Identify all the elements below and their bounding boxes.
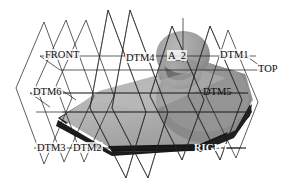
- cad-viewport[interactable]: FRONTDTM4A_2DTM1TOPDTM6DTM5DTM3DTM2RIGHT: [0, 0, 292, 186]
- datum-label-dtm1[interactable]: DTM1: [219, 49, 250, 60]
- datum-label-dtm3[interactable]: DTM3: [36, 142, 67, 153]
- datum-label-dtm2[interactable]: DTM2: [72, 142, 103, 153]
- datum-label-dtm4[interactable]: DTM4: [125, 52, 156, 63]
- datum-label-front[interactable]: FRONT: [44, 49, 80, 60]
- datum-label-dtm6[interactable]: DTM6: [32, 86, 63, 97]
- datum-label-a2[interactable]: A_2: [167, 50, 187, 61]
- datum-label-dtm5[interactable]: DTM5: [203, 86, 232, 97]
- datum-label-top[interactable]: TOP: [257, 63, 279, 74]
- datum-label-right[interactable]: RIGHT: [194, 142, 229, 153]
